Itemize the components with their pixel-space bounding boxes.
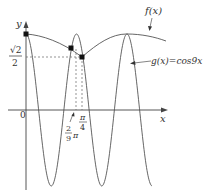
g-pointer-arrow-icon: [130, 61, 136, 65]
origin-label: 0: [20, 110, 26, 120]
y-axis-label: y: [15, 18, 22, 29]
pi-over-4-den: 4: [80, 123, 85, 132]
point-y-intercept: [24, 32, 29, 37]
graph-canvas: y x 0 √2 2 π 4 2 9 π f(x) g(x)=cos9x: [0, 0, 209, 192]
two-ninths-num: 2: [66, 124, 71, 133]
x-axis-label: x: [160, 113, 166, 124]
point-two-ninths-pi: [69, 46, 74, 51]
pi-over-4-num: π: [79, 113, 86, 122]
point-pi-over-4: [80, 55, 85, 60]
g-pointer: [134, 61, 151, 63]
two-ninths-pi: π: [72, 131, 79, 140]
sqrt2-label: √2: [10, 45, 21, 55]
g-label: g(x)=cos9x: [151, 56, 202, 66]
f-curve: [26, 34, 166, 57]
sqrt2-den-label: 2: [12, 58, 18, 68]
two-ninths-den: 9: [66, 134, 71, 143]
f-pointer-arrow-icon: [148, 26, 152, 31]
x-axis-arrow-icon: [161, 108, 168, 113]
f-label: f(x): [144, 5, 162, 16]
y-axis-arrow-icon: [24, 21, 29, 28]
two-ninths-pointer-arrow-icon: [72, 112, 75, 117]
f-pointer: [150, 18, 152, 27]
